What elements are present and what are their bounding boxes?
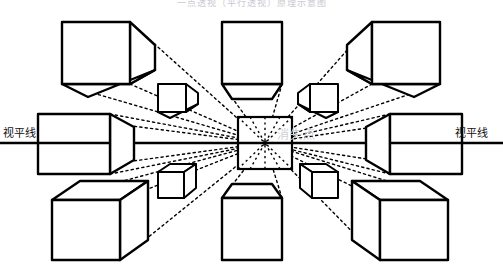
diagram-canvas: 一点透视（平行透视）原理示意图: [0, 0, 503, 274]
cube-top-right: [347, 22, 440, 97]
cube-inner-bottom-left: [158, 164, 196, 198]
horizon-label-right: 视平线: [455, 128, 488, 139]
horizon-label-left: 视平线: [3, 128, 36, 139]
cube-top-center: [222, 22, 282, 99]
cube-inner-top-right: [298, 84, 338, 118]
perspective-diagram-svg: [0, 0, 503, 274]
cube-inner-bottom-right: [300, 164, 338, 198]
cube-middle-left: [38, 114, 134, 174]
vanishing-point-label: 消失点: [277, 129, 316, 141]
cube-top-left: [62, 22, 155, 97]
cube-middle-right: [366, 114, 462, 174]
cube-bottom-left: [52, 181, 148, 260]
cube-bottom-center: [222, 184, 282, 260]
cube-inner-top-left: [158, 84, 198, 118]
cube-bottom-right: [352, 181, 448, 260]
